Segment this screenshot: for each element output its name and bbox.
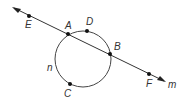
label-m: m [168,80,176,90]
label-f: F [146,79,152,89]
label-b: B [114,42,121,52]
geometry-diagram: E A D B n C F m [0,0,182,102]
point-a [66,32,70,36]
label-a: A [65,21,72,31]
label-n: n [47,63,53,73]
label-d: D [86,17,93,27]
arrowhead-right-icon [157,76,166,82]
point-c [68,82,72,86]
point-f [147,72,151,76]
circle-n [55,31,111,87]
label-e: E [25,20,32,30]
arrowhead-left-icon [12,7,21,13]
label-c: C [64,89,71,99]
point-b [108,52,112,56]
point-e [27,14,31,18]
point-d [85,29,89,33]
